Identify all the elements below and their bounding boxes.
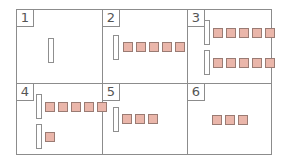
square [213, 58, 223, 68]
bar [113, 107, 119, 132]
square-row [123, 42, 185, 52]
cell-6: 6 [188, 84, 272, 156]
square [212, 115, 222, 125]
square [84, 102, 94, 112]
cell-label: 3 [188, 10, 205, 27]
cell-label: 5 [103, 84, 120, 101]
bar [113, 35, 119, 60]
cell-1: 1 [17, 10, 102, 83]
cell-label: 4 [17, 84, 34, 101]
square [265, 28, 275, 38]
square [162, 42, 172, 52]
square [175, 42, 185, 52]
square [213, 28, 223, 38]
square [135, 114, 145, 124]
square-row [212, 115, 248, 125]
square [238, 115, 248, 125]
square [45, 132, 55, 142]
square [252, 28, 262, 38]
bar [36, 124, 42, 149]
square [239, 58, 249, 68]
square [226, 58, 236, 68]
square [123, 42, 133, 52]
bar [48, 38, 54, 63]
square [239, 28, 249, 38]
square-row [45, 102, 107, 112]
square [226, 28, 236, 38]
cell-5: 5 [103, 84, 187, 156]
cell-label: 2 [103, 10, 120, 27]
square-row [213, 58, 275, 68]
square-row [122, 114, 158, 124]
diagram-grid: 1 2 3 [16, 9, 272, 155]
square [149, 42, 159, 52]
cell-label: 6 [188, 84, 205, 101]
cell-label: 1 [17, 10, 34, 27]
square [148, 114, 158, 124]
square [252, 58, 262, 68]
square [45, 102, 55, 112]
square [58, 102, 68, 112]
square-row [213, 28, 275, 38]
square-row [45, 132, 55, 142]
bar [204, 20, 210, 45]
cell-2: 2 [103, 10, 187, 83]
bar [36, 94, 42, 119]
cell-4: 4 [17, 84, 102, 156]
bar [204, 50, 210, 75]
square [71, 102, 81, 112]
cell-3: 3 [188, 10, 272, 83]
square [136, 42, 146, 52]
square [122, 114, 132, 124]
square [225, 115, 235, 125]
square [265, 58, 275, 68]
